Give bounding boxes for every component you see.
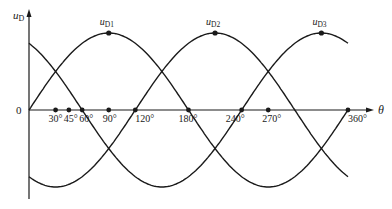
- y-axis-arrow-icon: [27, 9, 32, 17]
- peak-dot-u-d1: [106, 30, 111, 35]
- y-axis-label: uD: [13, 9, 25, 23]
- tick-label-270: 270°: [262, 113, 281, 124]
- curve-label-u-d2: uD2: [206, 16, 220, 29]
- curve-label-u-d3: uD3: [312, 16, 326, 29]
- tick-dot-60: [80, 108, 85, 113]
- tick-dot-45: [66, 108, 71, 113]
- tick-label-180: 180°: [178, 113, 197, 124]
- tick-label-45: 45°: [64, 113, 78, 124]
- peak-markers: uD1uD2uD3: [100, 16, 327, 36]
- tick-dot-90: [106, 108, 111, 113]
- tick-dot-240: [239, 108, 244, 113]
- peak-dot-u-d3: [319, 30, 324, 35]
- tick-dot-30: [53, 108, 58, 113]
- tick-dot-360: [346, 108, 351, 113]
- tick-label-120: 120°: [135, 113, 154, 124]
- curve-label-u-d1: uD1: [100, 16, 114, 29]
- tick-label-90: 90°: [103, 113, 117, 124]
- peak-dot-u-d2: [212, 30, 217, 35]
- x-axis-label: θ: [378, 103, 384, 117]
- tick-dot-180: [186, 108, 191, 113]
- tick-label-240: 240°: [226, 113, 245, 124]
- x-axis-arrow-icon: [366, 108, 374, 113]
- waveform-diagram: uD θ 0 uD1uD2uD3 30°45°60°90°120°180°240…: [0, 0, 392, 209]
- tick-label-30: 30°: [49, 113, 63, 124]
- origin-label: 0: [16, 104, 22, 116]
- tick-label-360: 360°: [348, 113, 367, 124]
- tick-label-60: 60°: [79, 113, 93, 124]
- tick-dot-120: [133, 108, 138, 113]
- tick-dot-270: [266, 108, 271, 113]
